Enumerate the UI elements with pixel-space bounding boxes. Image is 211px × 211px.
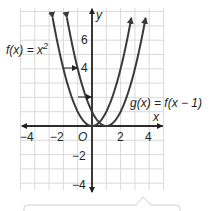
g-label: g(x) = f(x − 1) [130,96,202,110]
y-axis-label: y [95,8,103,22]
tick-x-4: 4 [145,130,152,144]
tick-x-m2: −2 [50,130,64,144]
tick-y-m4: −4 [72,178,86,192]
speech-bubble [24,197,180,211]
x-axis-label: x [152,110,160,124]
tick-y-4: 4 [81,61,88,75]
tick-y-6: 6 [81,33,88,47]
graph: −4 −2 O 2 4 6 4 −2 −4 y x f(x) = x2 g(x)… [0,0,211,211]
tick-x-m4: −4 [20,130,34,144]
origin-label: O [78,130,87,144]
tick-y-m2: −2 [72,149,86,163]
f-label: f(x) = x2 [6,41,48,57]
tick-x-2: 2 [117,130,124,144]
